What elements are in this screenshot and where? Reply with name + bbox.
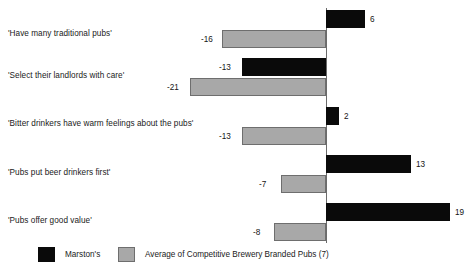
bar-value-average-1: -21 — [167, 83, 179, 93]
bar-value-average-2: -13 — [219, 132, 231, 142]
bar-average-4 — [274, 223, 326, 241]
legend-swatch-marstons-icon — [38, 247, 55, 262]
category-label-3: 'Pubs put beer drinkers first' — [8, 168, 110, 178]
chart-legend: Marston's Average of Competitive Brewery… — [0, 247, 470, 273]
bar-value-marstons-4: 19 — [455, 208, 464, 218]
bar-average-2 — [242, 127, 327, 145]
bar-value-marstons-0: 6 — [370, 15, 375, 25]
bar-value-marstons-3: 13 — [416, 160, 425, 170]
legend-item-average: Average of Competitive Brewery Branded P… — [118, 247, 329, 262]
category-label-0: 'Have many traditional pubs' — [8, 29, 112, 39]
category-label-4: 'Pubs offer good value' — [8, 216, 92, 226]
bar-marstons-2 — [326, 107, 339, 125]
bar-average-0 — [222, 30, 326, 48]
bar-average-1 — [190, 78, 327, 96]
bar-marstons-0 — [326, 10, 365, 28]
bar-marstons-3 — [326, 155, 411, 173]
legend-swatch-average-icon — [118, 247, 135, 262]
bar-value-average-4: -8 — [253, 228, 260, 238]
category-label-2: 'Bitter drinkers have warm feelings abou… — [8, 119, 193, 129]
bar-average-3 — [281, 175, 327, 193]
bar-value-average-3: -7 — [259, 180, 266, 190]
legend-item-marstons: Marston's — [38, 247, 100, 262]
bar-value-marstons-2: 2 — [344, 112, 349, 122]
bar-chart: 'Have many traditional pubs' 6 -16 'Sele… — [0, 0, 470, 279]
category-label-1: 'Select their landlords with care' — [8, 71, 124, 81]
bar-value-average-0: -16 — [201, 35, 213, 45]
plot-area: 'Have many traditional pubs' 6 -16 'Sele… — [0, 0, 470, 243]
bar-marstons-1 — [242, 58, 327, 76]
bar-value-marstons-1: -13 — [219, 63, 231, 73]
legend-label-average: Average of Competitive Brewery Branded P… — [145, 250, 329, 260]
legend-label-marstons: Marston's — [65, 250, 100, 260]
bar-marstons-4 — [326, 203, 450, 221]
